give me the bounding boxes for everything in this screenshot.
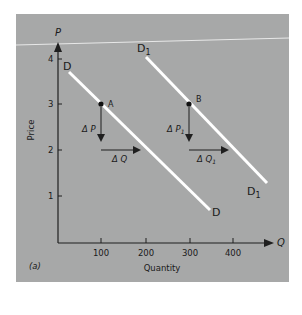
x-axis-title: Quantity	[144, 263, 181, 273]
delta-q-label: Δ Q	[111, 154, 128, 164]
chart-panel	[16, 14, 289, 282]
point-b-label: B	[196, 95, 202, 104]
y-tick-4: 4	[48, 54, 53, 64]
curve-d-start-label: D	[63, 60, 71, 73]
delta-p-label: Δ P	[81, 124, 97, 134]
y-axis-title: Price	[26, 120, 36, 141]
y-tick-2: 2	[48, 145, 53, 155]
point-b	[186, 101, 191, 106]
x-axis-symbol: Q	[277, 237, 285, 248]
panel-label: (a)	[29, 261, 41, 271]
y-tick-3: 3	[48, 99, 53, 109]
y-axis-symbol: P	[55, 27, 62, 38]
x-tick-200: 200	[138, 248, 154, 258]
point-a-label: A	[108, 100, 114, 109]
point-a	[98, 101, 103, 106]
curve-d-end-label: D	[212, 206, 220, 219]
x-tick-400: 400	[225, 248, 241, 258]
x-tick-100: 100	[93, 248, 109, 258]
x-tick-300: 300	[182, 248, 198, 258]
y-tick-1: 1	[48, 191, 53, 201]
demand-shift-chart: P Q 4 3 2 1 100 200 300 400 Quantity Pri…	[0, 0, 302, 315]
